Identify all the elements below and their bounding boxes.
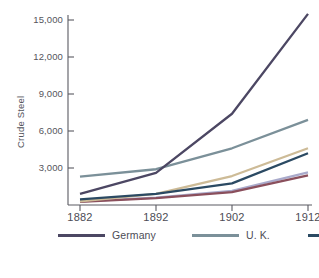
legend-item-germany[interactable]: Germany	[58, 227, 192, 243]
chart-legend: GermanyU. K.FranceAustriaRussiaBelgium	[58, 227, 308, 275]
legend-swatch-icon	[58, 234, 105, 237]
legend-item-france[interactable]: France	[308, 227, 319, 243]
y-tick-marks	[68, 20, 74, 168]
legend-item-u-k[interactable]: U. K.	[192, 227, 308, 243]
x-tick-marks	[80, 205, 308, 211]
legend-label: U. K.	[246, 229, 270, 241]
legend-label: Germany	[112, 229, 156, 241]
legend-swatch-icon	[192, 234, 239, 237]
series-line-u-k	[80, 120, 308, 177]
series-lines	[80, 14, 308, 202]
legend-swatch-icon	[308, 234, 319, 237]
axis-lines	[68, 15, 312, 205]
crude-steel-line-chart: Crude Steel 15,00012,0009,0006,0003,000 …	[0, 0, 319, 278]
